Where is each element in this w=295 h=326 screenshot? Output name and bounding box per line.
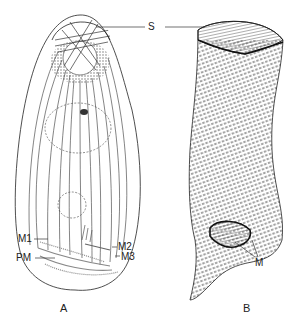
oral-membranelles xyxy=(38,225,118,275)
cell-b xyxy=(180,21,290,310)
contractile-vacuole xyxy=(58,192,86,218)
macronucleus xyxy=(45,103,111,153)
label-m3: M3 xyxy=(121,252,135,262)
apical-oral-region xyxy=(50,20,110,84)
panel-label-b: B xyxy=(243,303,250,314)
panel-label-a: A xyxy=(60,303,67,314)
micronucleus xyxy=(80,109,88,115)
label-s: S xyxy=(148,22,155,32)
figure-artwork xyxy=(0,0,295,326)
label-m: M xyxy=(255,258,263,268)
label-m1: M1 xyxy=(18,234,32,244)
label-pm: PM xyxy=(16,253,31,263)
